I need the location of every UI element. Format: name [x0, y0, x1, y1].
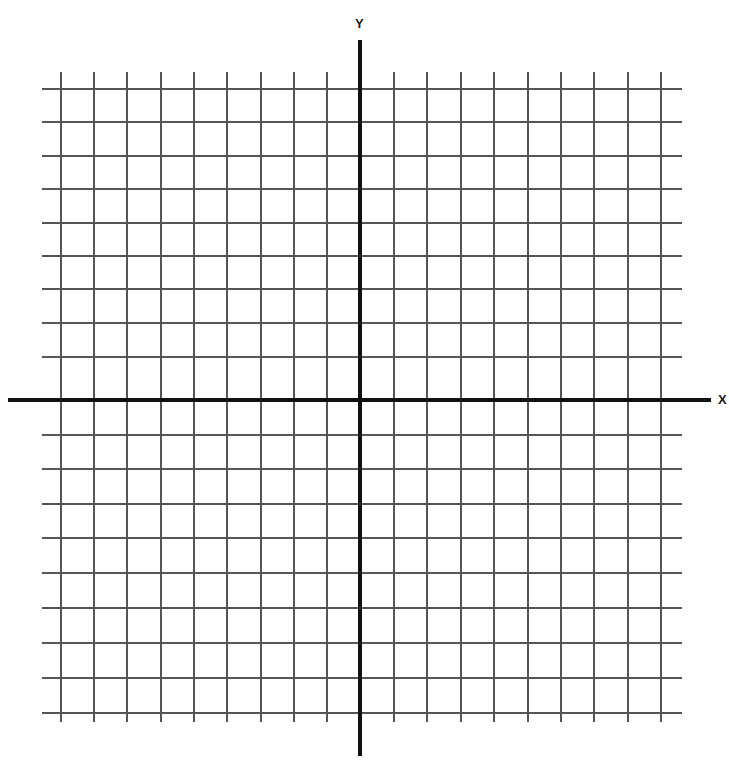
coordinate-plane: Y X: [0, 0, 729, 763]
grid-svg: [0, 0, 729, 763]
y-axis-label: Y: [355, 17, 364, 30]
plot-background: [0, 0, 729, 763]
x-axis-label: X: [718, 393, 727, 406]
